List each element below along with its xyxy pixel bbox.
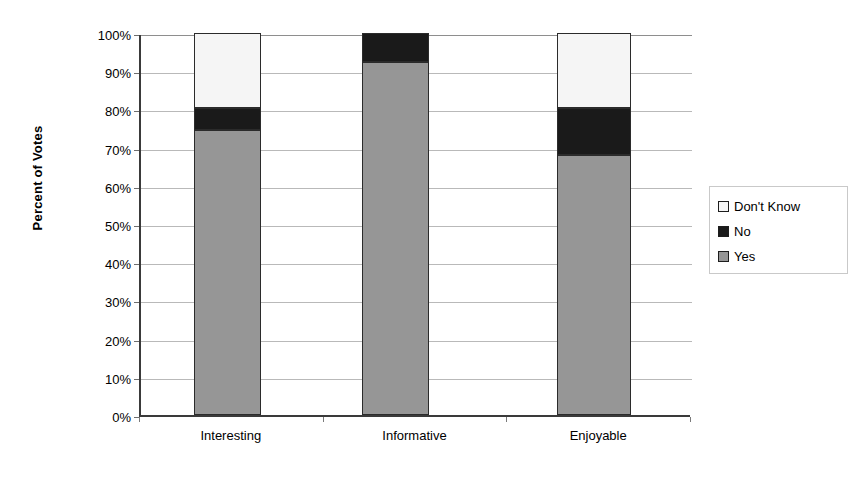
bar-segment xyxy=(362,33,429,62)
y-tick-label: 70% xyxy=(75,144,131,157)
bar-segment xyxy=(194,130,261,415)
legend-label: Don't Know xyxy=(734,200,800,213)
legend-swatch-icon xyxy=(718,226,729,237)
bar-informative xyxy=(362,33,429,415)
legend-item[interactable]: Yes xyxy=(718,244,847,269)
y-tick-label: 40% xyxy=(75,258,131,271)
y-tick-label: 60% xyxy=(75,182,131,195)
x-tick-mark xyxy=(323,417,324,422)
x-tick-label: Interesting xyxy=(161,428,301,443)
bar-segment xyxy=(194,108,261,131)
x-tick-label: Enjoyable xyxy=(528,428,668,443)
y-tick-label: 100% xyxy=(75,29,131,42)
y-tick-label: 30% xyxy=(75,296,131,309)
y-tick-label: 20% xyxy=(75,335,131,348)
legend-item[interactable]: Don't Know xyxy=(718,194,847,219)
bar-segment xyxy=(557,33,631,107)
bar-segment xyxy=(194,33,261,107)
legend-swatch-icon xyxy=(718,251,729,262)
x-tick-mark xyxy=(139,417,140,422)
x-tick-mark xyxy=(506,417,507,422)
y-tick-label: 0% xyxy=(75,411,131,424)
y-tick-label: 10% xyxy=(75,373,131,386)
bar-segment xyxy=(362,62,429,415)
x-tick-label: Informative xyxy=(345,428,485,443)
y-tick-label: 50% xyxy=(75,220,131,233)
legend-item[interactable]: No xyxy=(718,219,847,244)
plot-area xyxy=(139,35,690,417)
chart-legend: Don't KnowNoYes xyxy=(709,186,848,274)
legend-label: No xyxy=(734,225,751,238)
x-tick-mark xyxy=(690,417,691,422)
y-axis-title: Percent of Votes xyxy=(30,78,50,278)
y-tick-label: 80% xyxy=(75,105,131,118)
stacked-bar-chart: Percent of Votes 0%10%20%30%40%50%60%70%… xyxy=(0,0,858,480)
bar-enjoyable xyxy=(557,33,631,415)
legend-swatch-icon xyxy=(718,201,729,212)
bar-interesting xyxy=(194,33,261,415)
legend-label: Yes xyxy=(734,250,755,263)
y-tick-label: 90% xyxy=(75,67,131,80)
bar-segment xyxy=(557,155,631,415)
bar-segment xyxy=(557,108,631,156)
